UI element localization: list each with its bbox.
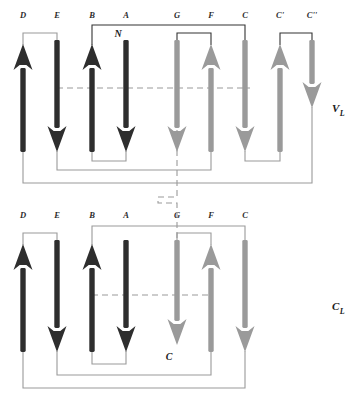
connector-VL-E-F [57, 151, 211, 170]
strand-shaft [89, 68, 94, 152]
strand-shaft [208, 268, 213, 352]
strand-arrowhead-down [168, 319, 187, 345]
strand-arrowhead-down [48, 326, 67, 352]
connector-CL-G-F [177, 233, 211, 245]
strand-label-CL-F: F [207, 210, 214, 220]
strand-VL-E [48, 40, 67, 152]
strand-shaft [54, 40, 59, 128]
strands-CL [14, 240, 255, 352]
strand-arrowhead-down [168, 126, 187, 152]
strand-CL-F [202, 244, 221, 352]
strand-VL-F [202, 44, 221, 152]
strand-label-VL-B: B [88, 10, 95, 20]
connector-CL-B-C [92, 226, 245, 245]
strand-VL-Cpp [303, 40, 322, 108]
strand-arrowhead-down [303, 82, 322, 108]
strand-label-VL-E: E [53, 10, 60, 20]
strand-label-VL-D: D [19, 10, 26, 20]
topology-diagram: DEBAGFCC'C''NVLDEBAGFCCCL [0, 0, 364, 402]
connector-VL-C-Cp [245, 151, 280, 161]
connector-VL-Cp-Cpp [280, 33, 312, 45]
strand-label-VL-Cpp: C'' [307, 10, 318, 20]
connectors-VL [23, 25, 312, 183]
strands-VL [14, 40, 322, 152]
strand-label-VL-C: C [242, 10, 248, 20]
strand-arrowhead-up [202, 44, 221, 70]
strand-CL-A [117, 240, 136, 352]
connector-CL-B-A [92, 351, 126, 364]
strand-label-CL-B: B [88, 210, 95, 220]
terminus-label-VL: N [113, 28, 122, 39]
strand-CL-D [14, 244, 33, 352]
strand-label-VL-G: G [174, 10, 181, 20]
strand-label-VL-Cp: C' [276, 10, 285, 20]
strand-VL-D [14, 44, 33, 152]
domain-label-VL: VL [332, 102, 345, 118]
connector-CL-D-C [23, 351, 245, 388]
connector-VL-D-Cpp [23, 107, 312, 183]
strand-CL-B [83, 244, 102, 352]
strand-shaft [242, 40, 247, 128]
connector-VL-B-A [92, 151, 126, 161]
strand-shaft [20, 68, 25, 152]
strand-label-VL-A: A [122, 10, 129, 20]
terminus-label-CL: C [166, 351, 173, 362]
strand-CL-E [48, 240, 67, 352]
strand-shaft [89, 268, 94, 352]
strand-VL-Cp [271, 44, 290, 152]
connector-CL-D-E [23, 233, 57, 245]
strand-arrowhead-up [83, 44, 102, 70]
domain-subscript-CL: L [339, 307, 345, 316]
strand-VL-A [117, 40, 136, 152]
domain-subscript-VL: L [339, 109, 345, 118]
strand-VL-C [236, 40, 255, 152]
strand-arrowhead-up [83, 244, 102, 270]
strand-arrowhead-down [236, 126, 255, 152]
domain-VL: DEBAGFCC'C''NVL [14, 10, 345, 183]
strand-shaft [54, 240, 59, 328]
interdomain-linker [158, 130, 177, 250]
connector-CL-E-F [57, 351, 211, 375]
connector-VL-D-E [23, 33, 57, 45]
strand-arrowhead-down [236, 326, 255, 352]
strand-CL-C [236, 240, 255, 352]
strand-label-CL-E: E [53, 210, 60, 220]
strand-shaft [242, 240, 247, 328]
domain-CL: DEBAGFCCCL [14, 210, 345, 388]
strand-shaft [123, 40, 128, 128]
connector-VL-G-F [177, 33, 211, 45]
domain-label-CL: CL [332, 300, 345, 316]
strand-arrowhead-down [48, 126, 67, 152]
figure-canvas: DEBAGFCC'C''NVLDEBAGFCCCL [0, 0, 364, 402]
strand-arrowhead-down [117, 326, 136, 352]
strand-shaft [174, 40, 179, 128]
strand-label-CL-D: D [19, 210, 26, 220]
strand-shaft [174, 240, 179, 321]
strand-shaft [277, 68, 282, 152]
strand-label-CL-C: C [242, 210, 248, 220]
strand-arrowhead-up [202, 244, 221, 270]
dashed-vertical-linker [158, 130, 177, 250]
strand-shaft [123, 240, 128, 328]
strand-CL-G [168, 240, 187, 345]
strand-arrowhead-up [14, 44, 33, 70]
strand-shaft [309, 40, 314, 84]
strand-shaft [20, 268, 25, 352]
strand-arrowhead-up [14, 244, 33, 270]
strand-label-CL-A: A [122, 210, 129, 220]
strand-arrowhead-down [117, 126, 136, 152]
strand-label-VL-F: F [207, 10, 214, 20]
strand-VL-B [83, 44, 102, 152]
strand-shaft [208, 68, 213, 152]
strand-arrowhead-up [271, 44, 290, 70]
